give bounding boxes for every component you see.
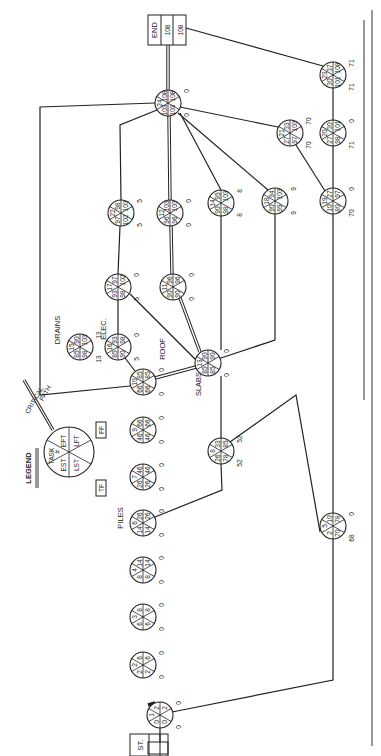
task-tf: 68 [348,534,355,542]
task-est: 90 [214,206,221,214]
task-est: 90 [166,290,173,298]
task-est: 6 [136,622,143,626]
task-ff: 0 [133,333,140,337]
task-ff: 0 [185,199,192,203]
task-node: 139085908500 [195,349,230,377]
task-ff: 9 [290,187,297,191]
task-number: 9 [131,428,138,432]
task-ff: 0 [188,273,195,277]
task-lst: 80 [334,204,341,212]
task-lst: 102 [122,214,129,225]
task-tf: 70 [305,141,312,149]
task-tf: 70 [348,209,355,217]
task-ff: 8 [236,189,243,193]
legend-ff: FF [98,426,105,434]
task-node: 22989710310255 [108,199,143,227]
task-ff: 71 [348,59,355,67]
task-node: 1202000 [147,701,182,729]
legend: LEGEND TASK # EFT EST LFT LST TF FF CRIT… [23,380,106,496]
task-tf: 0 [223,373,230,377]
task-number: 5 [321,524,328,528]
task-node: 108566856600 [130,368,165,396]
task-est: 46 [136,433,143,441]
task-ff: 0 [158,651,165,655]
task-lft: 97 [334,190,341,198]
task-ff: 0 [183,89,190,93]
task-lft: 66 [144,419,151,427]
cpm-network-diagram: LEGEND TASK # EFT EST LFT LST TF FF CRIT… [0,0,381,756]
task-node: 1495901039888 [208,189,243,217]
task-tf: 5 [133,357,140,361]
task-est: 66 [136,385,143,393]
task-ff: 0 [158,463,165,467]
legend-title: LEGEND [24,452,33,484]
task-node: 3868600 [130,603,165,631]
task-eft: 97 [111,276,118,284]
task-est: 14 [136,526,143,534]
task-eft: 26 [136,512,143,520]
task-ff: 0 [175,701,182,705]
task-est: 96 [163,216,170,224]
task-tf: 0 [175,725,182,729]
task-eft: 27 [326,190,333,198]
task-lft: 103 [276,188,283,199]
task-est: 85 [111,350,118,358]
task-number: 7 [131,475,138,479]
legend-tf: TF [98,484,105,492]
task-est: 8 [136,575,143,579]
task-eft: 66 [136,419,143,427]
task-node: 12103961039600 [157,199,192,227]
start-label: ST. [136,740,145,751]
nodes: 1202000262620038686004148148006261426140… [67,59,355,729]
task-node: 96646664600 [130,416,165,444]
task-lft: 103 [122,200,129,211]
task-est: 85 [201,366,208,374]
task-node: 159085103981313 [67,331,102,363]
task-tf: 5 [136,223,143,227]
task-eft: 95 [214,192,221,200]
task-tf: 0 [158,580,165,584]
task-eft: 108 [161,90,168,101]
task-est: 2 [136,670,143,674]
task-ff: 0 [158,416,165,420]
task-tf: 52 [236,459,243,467]
task-ff: 13 [95,331,102,339]
task-lft: 6 [144,656,151,660]
task-eft: 6 [136,656,143,660]
task-node: 2337301081017171 [320,59,355,91]
task-est: 90 [268,204,275,212]
task-tf: 8 [236,213,243,217]
task-lst: 66 [144,385,151,393]
start-box: ST. [130,734,168,756]
legend-lft: LFT [73,435,80,447]
task-eft: 103 [163,200,170,211]
task-lft: 85 [144,371,151,379]
task-ff: 0 [133,273,140,277]
task-ff: 0 [158,556,165,560]
task-lst: 6 [144,622,151,626]
task-tf: 71 [348,141,355,149]
task-lst: 98 [119,290,126,298]
task-lft: 14 [144,559,151,567]
task-lft: 103 [171,200,178,211]
task-node: 2410810310810300 [155,89,190,117]
task-lst: 0 [161,720,168,724]
task-node: 213327103977070 [277,117,312,149]
task-eft: 30 [326,122,333,130]
task-eft: 33 [214,440,221,448]
task-lst: 103 [169,104,176,115]
task-lst: 85 [209,366,216,374]
task-eft: 14 [136,559,143,567]
task-est: 27 [283,136,290,144]
task-ff: 0 [158,603,165,607]
task-tf: 13 [95,355,102,363]
task-eft: 10 [326,515,333,523]
task-lst: 46 [144,433,151,441]
task-lft: 98 [119,336,126,344]
task-node: 62614261400 [130,509,165,537]
legend-task-hash: # [54,450,61,454]
task-eft: 93 [111,336,118,344]
task-est: 0 [153,720,160,724]
task-node: 119690969000 [160,273,195,301]
legend-eft: EFT [60,435,67,447]
